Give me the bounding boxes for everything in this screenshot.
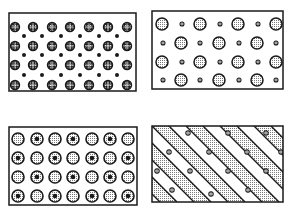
small-dot [78, 73, 82, 77]
stippled-particle [175, 37, 187, 49]
dark-core [126, 156, 131, 161]
small-dot [78, 53, 82, 57]
band-edge [288, 126, 296, 202]
stippled-band [0, 126, 7, 202]
stippled-particle [86, 133, 98, 145]
dark-core [35, 175, 40, 180]
stippled-particle [104, 152, 116, 164]
stippled-particle [49, 171, 61, 183]
dark-core [53, 156, 58, 161]
small-dot [115, 53, 119, 57]
panel-content [11, 23, 132, 90]
small-dot [97, 73, 101, 77]
small-dot [40, 73, 44, 77]
stippled-particle [31, 190, 43, 202]
panel-content [0, 126, 296, 202]
dark-core [90, 156, 95, 161]
microstructure-figure [0, 0, 296, 217]
band-edge [0, 126, 7, 202]
panel-top-right [152, 11, 283, 89]
panel-content [156, 18, 282, 86]
stippled-particle [194, 56, 206, 68]
stippled-particle [194, 18, 206, 30]
panel-bottom-left [9, 127, 137, 205]
small-dot [97, 34, 101, 38]
dark-core [71, 137, 76, 142]
dark-core [35, 137, 40, 142]
stippled-particle [122, 133, 134, 145]
small-dot [22, 53, 26, 57]
panel-content [12, 133, 134, 202]
dark-core [126, 194, 131, 199]
stippled-particle [175, 74, 187, 86]
small-dot [59, 34, 63, 38]
small-dot [22, 34, 26, 38]
stippled-particle [86, 171, 98, 183]
stippled-particle [213, 74, 225, 86]
stippled-particle [104, 190, 116, 202]
panel-bottom-right [0, 126, 296, 202]
stippled-particle [67, 190, 79, 202]
dark-core [108, 175, 113, 180]
small-dot [78, 34, 82, 38]
dark-core [90, 194, 95, 199]
stippled-particle [232, 18, 244, 30]
dark-core [53, 194, 58, 199]
stippled-particle [251, 37, 263, 49]
stippled-particle [122, 171, 134, 183]
small-dot [22, 73, 26, 77]
stippled-particle [31, 152, 43, 164]
stippled-band [288, 126, 296, 202]
small-dot [59, 73, 63, 77]
small-dot [97, 53, 101, 57]
small-dot [115, 73, 119, 77]
stippled-particle [156, 56, 168, 68]
dark-core [108, 137, 113, 142]
stippled-particle [251, 74, 263, 86]
dark-core [16, 156, 21, 161]
stippled-particle [49, 133, 61, 145]
stippled-particle [213, 37, 225, 49]
small-dot [40, 53, 44, 57]
stippled-particle [270, 18, 282, 30]
stippled-particle [270, 56, 282, 68]
stippled-particle [12, 133, 24, 145]
stippled-particle [156, 18, 168, 30]
panels-layer [0, 11, 296, 205]
small-dot [40, 34, 44, 38]
stippled-particle [67, 152, 79, 164]
stippled-particle [12, 171, 24, 183]
small-dot [115, 34, 119, 38]
small-dot [59, 53, 63, 57]
dark-core [71, 175, 76, 180]
panel-top-left [9, 13, 136, 91]
stippled-particle [232, 56, 244, 68]
dark-core [16, 194, 21, 199]
